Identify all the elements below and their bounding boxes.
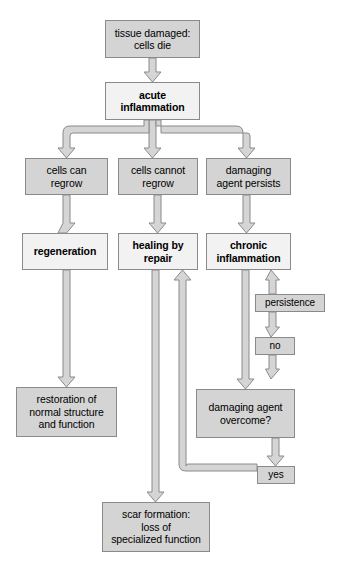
node-tissue-damaged-line1: tissue damaged: <box>113 27 193 40</box>
node-acute-inflammation: acute inflammation <box>105 82 200 120</box>
edge-tissue-to-acute <box>144 58 161 82</box>
edge-healing-to-scar <box>147 270 164 502</box>
node-regeneration: regeneration <box>22 233 108 270</box>
node-healing-by-repair: healing by repair <box>118 233 198 270</box>
node-acute-line2: inflammation <box>118 101 186 114</box>
node-yes: yes <box>257 466 295 484</box>
edge-damaging-to-chronic <box>238 195 255 233</box>
edge-cellscannot-to-healing <box>149 195 166 233</box>
edge-overcome-to-yes <box>267 438 284 466</box>
node-cells-cannot-line2: regrow <box>129 177 187 190</box>
node-regeneration-line1: regeneration <box>32 245 98 258</box>
node-tissue-damaged-line2: cells die <box>113 39 193 52</box>
node-restoration-line2: normal structure <box>27 406 105 419</box>
node-cells-cannot-line1: cells cannot <box>129 164 187 177</box>
edge-regeneration-to-restoration <box>58 270 75 387</box>
node-cells-cannot-regrow: cells cannot regrow <box>118 158 198 195</box>
node-scar-formation: scar formation: loss of specialized func… <box>102 502 210 552</box>
node-restoration-line3: and function <box>27 418 105 431</box>
edge-cellscan-to-regeneration <box>58 195 75 233</box>
node-tissue-damaged: tissue damaged: cells die <box>105 20 200 58</box>
node-cells-can-regrow: cells can regrow <box>25 158 108 195</box>
node-persistence: persistence <box>255 294 325 312</box>
edge-acute-to-damaging-agent <box>156 120 255 158</box>
node-scar-line3: specialized function <box>109 533 203 546</box>
node-scar-line2: loss of <box>109 521 203 534</box>
node-yes-label: yes <box>266 469 285 482</box>
node-no-label: no <box>268 340 283 353</box>
edge-chronic-to-overcome <box>237 270 254 389</box>
node-cells-can-line1: cells can <box>45 164 89 177</box>
node-persistence-label: persistence <box>263 297 317 310</box>
node-damaging-agent-persists: damaging agent persists <box>206 158 291 195</box>
node-no: no <box>255 337 295 355</box>
node-chronic-line1: chronic <box>214 239 282 252</box>
flowchart-canvas: tissue damaged: cells die acute inflamma… <box>0 0 339 564</box>
node-chronic-line2: inflammation <box>214 252 282 265</box>
node-healing-line1: healing by <box>131 239 186 252</box>
edge-acute-to-cells-can <box>58 120 149 158</box>
node-scar-line1: scar formation: <box>109 508 203 521</box>
edge-persistence-to-chronic <box>266 270 280 294</box>
node-restoration: restoration of normal structure and func… <box>16 387 117 437</box>
node-acute-line1: acute <box>118 89 186 102</box>
node-damaging-line1: damaging <box>215 164 283 177</box>
node-chronic-inflammation: chronic inflammation <box>206 233 291 270</box>
node-damaging-agent-overcome: damaging agent overcome? <box>196 389 295 438</box>
edge-overcome-to-no <box>266 355 280 379</box>
node-cells-can-line2: regrow <box>45 177 89 190</box>
node-overcome-line2: overcome? <box>207 414 285 427</box>
node-overcome-line1: damaging agent <box>207 401 285 414</box>
node-restoration-line1: restoration of <box>27 393 105 406</box>
edge-no-to-persistence <box>266 312 280 337</box>
node-healing-line2: repair <box>131 252 186 265</box>
node-damaging-line2: agent persists <box>215 177 283 190</box>
